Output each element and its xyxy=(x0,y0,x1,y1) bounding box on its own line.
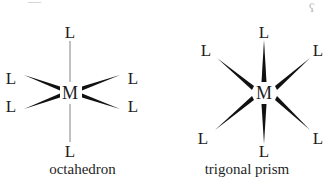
panel-octahedron: M L L L L L L octahedron xyxy=(0,0,165,190)
ligand-top-label: L xyxy=(65,24,75,41)
ligand-upper-right-label: L xyxy=(128,70,138,87)
ligand-lower-right-label: L xyxy=(128,98,138,115)
metal-center-label: M xyxy=(256,84,272,102)
bond-wedge-lower-left xyxy=(215,96,254,130)
ligand-upper-left-label: L xyxy=(6,70,16,87)
ligand-top-label: L xyxy=(259,24,269,41)
caption-trigonal-prism: trigonal prism xyxy=(165,161,329,178)
ligand-lower-left-label: L xyxy=(198,130,208,147)
bond-wedge-lower-left xyxy=(24,94,60,110)
panel-trigonal-prism: M L L L L L L trigonal prism xyxy=(165,0,329,190)
bond-wedge-upper-right xyxy=(82,75,120,91)
ligand-lower-left-label: L xyxy=(6,98,16,115)
bond-wedge-upper-right xyxy=(275,58,310,90)
caption-octahedron: octahedron xyxy=(0,161,165,178)
bond-wedge-top xyxy=(262,40,267,82)
ligand-upper-right-label: L xyxy=(313,42,323,59)
ligand-bottom-label: L xyxy=(65,143,75,160)
ligand-bottom-label: L xyxy=(259,143,269,160)
ligand-lower-right-label: L xyxy=(313,130,323,147)
bond-wedge-upper-left xyxy=(217,58,254,90)
coordination-geometry-figure: — ʕ M L L L L L L octahedron xyxy=(0,0,329,190)
ligand-upper-left-label: L xyxy=(201,42,211,59)
bond-wedge-lower-right xyxy=(275,96,310,130)
bond-wedge-lower-right xyxy=(82,94,120,110)
metal-center-label: M xyxy=(62,84,78,102)
bond-wedge-upper-left xyxy=(24,75,60,91)
bond-wedge-bottom xyxy=(262,104,267,144)
